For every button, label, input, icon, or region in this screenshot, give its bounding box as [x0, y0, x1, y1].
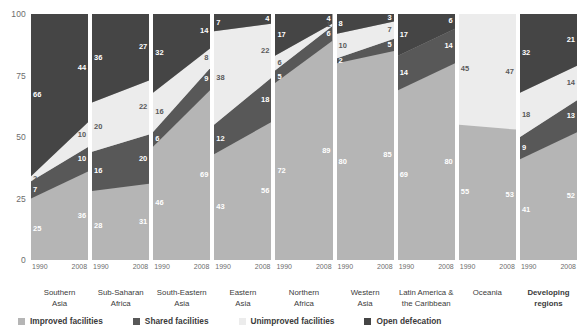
value-label: 10	[339, 42, 347, 50]
year-label-end: 2008	[499, 263, 515, 270]
year-axis: 19902008	[459, 263, 516, 273]
chart-legend: Improved facilitiesShared facilitiesUnim…	[0, 312, 577, 330]
value-label: 16	[94, 168, 102, 176]
value-label: 22	[139, 104, 147, 112]
value-label: 6	[326, 30, 330, 38]
value-label: 4	[265, 15, 269, 23]
year-label-start: 1990	[338, 263, 354, 270]
value-label: 85	[383, 152, 391, 160]
value-label: 20	[139, 155, 147, 163]
value-label: 5	[387, 41, 391, 49]
chart-panel: 5553454719902008	[459, 0, 516, 282]
legend-item[interactable]: Unimproved facilities	[239, 316, 335, 326]
y-axis-tick-label: 100	[11, 9, 26, 19]
year-axis: 19902008	[92, 263, 149, 273]
y-axis: 1007550250	[0, 0, 30, 282]
year-label-start: 1990	[154, 263, 170, 270]
value-label: 6	[277, 59, 281, 67]
year-label-start: 1990	[93, 263, 109, 270]
panel-plot: 2831162020223627	[92, 14, 149, 260]
value-label: 8	[339, 20, 343, 28]
value-label: 80	[444, 158, 452, 166]
value-label: 13	[567, 112, 575, 120]
region-label: Sub-Saharan Africa	[92, 288, 149, 312]
y-axis-tick-label: 25	[16, 194, 26, 204]
value-label: 6	[155, 136, 159, 144]
value-label: 89	[322, 147, 330, 155]
value-label: 56	[261, 187, 269, 195]
value-label: 53	[506, 191, 514, 199]
value-label: 55	[461, 189, 469, 197]
year-label-end: 2008	[194, 263, 210, 270]
value-label: 36	[94, 55, 102, 63]
year-axis: 19902008	[275, 263, 332, 273]
panel-plot: 25367102106644	[31, 14, 88, 260]
year-label-start: 1990	[460, 263, 476, 270]
value-label: 47	[506, 68, 514, 76]
value-label: 2	[33, 175, 37, 183]
legend-swatch-icon	[239, 318, 246, 325]
y-axis-tick-label: 75	[16, 71, 26, 81]
value-label: 31	[139, 218, 147, 226]
chart-panel: 466969168321419902008	[153, 0, 210, 282]
value-label: 8	[204, 55, 208, 63]
value-label: 52	[567, 192, 575, 200]
value-label: 28	[94, 222, 102, 230]
value-label: 18	[522, 111, 530, 119]
value-label: 80	[339, 158, 347, 166]
legend-item[interactable]: Open defecation	[364, 316, 441, 326]
value-label: 72	[277, 168, 285, 176]
legend-label: Shared facilities	[145, 316, 209, 326]
legend-item[interactable]: Shared facilities	[133, 316, 209, 326]
value-label: 32	[155, 50, 163, 58]
year-axis: 19902008	[398, 263, 455, 273]
value-label: 41	[522, 206, 530, 214]
value-label: 25	[33, 226, 41, 234]
year-axis: 19902008	[520, 263, 577, 273]
year-label-start: 1990	[521, 263, 537, 270]
value-label: 7	[387, 26, 391, 34]
value-label: 14	[444, 42, 452, 50]
panel-plot: 69801414176	[398, 14, 455, 260]
value-label: 36	[78, 212, 86, 220]
chart-panel: 283116202022362719902008	[92, 0, 149, 282]
panel-plot: 80852510783	[337, 14, 394, 260]
value-label: 21	[567, 36, 575, 44]
year-axis: 19902008	[337, 263, 394, 273]
value-label: 14	[200, 27, 208, 35]
panel-container: 2536710210664419902008283116202022362719…	[31, 0, 577, 282]
value-label: 10	[78, 131, 86, 139]
year-label-start: 1990	[399, 263, 415, 270]
value-label: 69	[200, 171, 208, 179]
region-label: Developing regions	[520, 288, 577, 312]
value-label: 17	[400, 31, 408, 39]
value-label: 43	[216, 203, 224, 211]
legend-item[interactable]: Improved facilities	[18, 316, 103, 326]
region-label-row: Southern AsiaSub-Saharan AfricaSouth-Eas…	[31, 288, 577, 312]
region-label: Eastern Asia	[214, 288, 271, 312]
legend-label: Unimproved facilities	[251, 316, 335, 326]
plot-area: 1007550250 25367102106644199020082831162…	[0, 0, 577, 282]
value-label: 6	[449, 18, 453, 26]
value-label: 14	[567, 79, 575, 87]
value-label: 10	[78, 155, 86, 163]
value-label: 17	[277, 31, 285, 39]
panel-plot: 43561218382274	[214, 14, 271, 260]
value-label: 69	[400, 171, 408, 179]
value-label: 7	[33, 186, 37, 194]
panel-plot: 415291318143221	[520, 14, 577, 260]
region-label: Latin America & the Caribbean	[398, 288, 455, 312]
year-label-start: 1990	[215, 263, 231, 270]
value-label: 46	[155, 200, 163, 208]
year-axis: 19902008	[153, 263, 210, 273]
value-label: 14	[400, 69, 408, 77]
chart-panel: 41529131814322119902008	[520, 0, 577, 282]
year-label-end: 2008	[72, 263, 88, 270]
legend-label: Open defecation	[376, 316, 441, 326]
panel-plot: 72895661174	[275, 14, 332, 260]
year-axis: 19902008	[31, 263, 88, 273]
value-label: 5	[277, 73, 281, 81]
value-label: 7	[216, 19, 220, 27]
year-axis: 19902008	[214, 263, 271, 273]
year-label-end: 2008	[560, 263, 576, 270]
